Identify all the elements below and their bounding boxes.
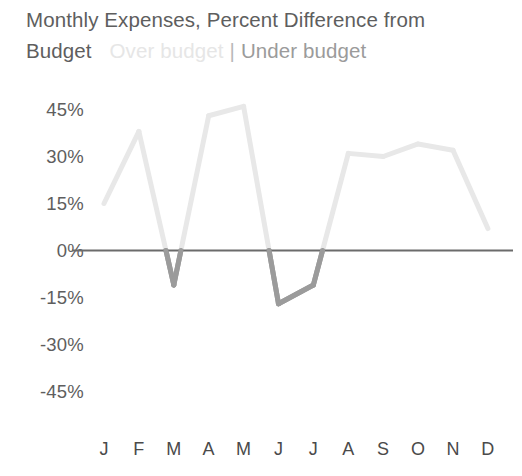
series-segment xyxy=(244,106,269,250)
series-segment xyxy=(348,153,383,156)
series-segment-negative xyxy=(174,251,181,285)
series-segment xyxy=(209,106,244,115)
series-segment-negative xyxy=(269,251,278,304)
series-segment xyxy=(418,144,453,150)
series-segment xyxy=(383,144,418,157)
plot-area: 45%30%15%0%-15%-30%-45% JFMAMJJASOND xyxy=(0,0,522,476)
series-segment xyxy=(104,131,139,203)
series-segment xyxy=(181,116,209,251)
series-segment-negative xyxy=(313,251,322,285)
series-segment xyxy=(139,131,166,250)
chart-container: Monthly Expenses, Percent Difference fro… xyxy=(0,0,522,476)
series-segment-negative xyxy=(279,285,314,304)
series-segment xyxy=(453,150,488,228)
series-segment xyxy=(323,153,349,250)
expense-line-series xyxy=(0,0,522,476)
